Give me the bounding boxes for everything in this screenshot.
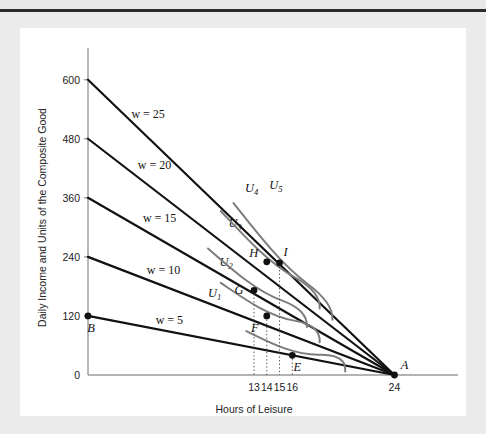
point-label-E: E (292, 360, 301, 374)
data-point-E (289, 352, 296, 359)
y-tick-label: 240 (62, 251, 80, 263)
x-tick-label: 14 (261, 381, 273, 393)
data-point-A (391, 372, 398, 379)
y-tick-label: 600 (62, 74, 80, 86)
y-tick-label: 0 (74, 369, 80, 381)
data-point-G (251, 287, 258, 294)
y-tick-label: 480 (62, 133, 80, 145)
point-label-G: G (234, 283, 243, 297)
budget-label-w10: w = 10 (147, 263, 180, 277)
point-label-F: F (250, 321, 259, 335)
point-label-A: A (400, 358, 409, 372)
budget-line-w20 (88, 139, 394, 375)
data-point-H (263, 258, 270, 265)
y-tick-label: 360 (62, 192, 80, 204)
y-axis-title: Daily Income and Units of the Composite … (36, 108, 48, 327)
labor-leisure-budget-chart: 01202403604806001314151624Hours of Leisu… (20, 28, 466, 416)
x-tick-label: 24 (389, 381, 401, 393)
x-tick-label: 15 (274, 381, 286, 393)
figure-card: 01202403604806001314151624Hours of Leisu… (20, 28, 466, 416)
point-label-H: H (248, 246, 259, 260)
x-axis-title: Hours of Leisure (215, 403, 292, 415)
chart-svg: 01202403604806001314151624Hours of Leisu… (20, 28, 466, 416)
budget-label-w15: w = 15 (143, 211, 176, 225)
point-label-B: B (87, 321, 95, 335)
x-tick-label: 13 (248, 381, 260, 393)
budget-line-w5 (88, 316, 394, 375)
budget-label-w20: w = 20 (138, 158, 171, 172)
y-tick-label: 120 (62, 310, 80, 322)
data-point-B (85, 313, 92, 320)
data-point-F (263, 313, 270, 320)
indifference-label-U4: U4 (245, 181, 259, 197)
x-tick-label: 16 (286, 381, 298, 393)
indifference-label-U1: U1 (208, 286, 221, 302)
indifference-label-U5: U5 (269, 178, 282, 194)
budget-label-w5: w = 5 (156, 313, 183, 327)
data-point-I (276, 259, 283, 266)
point-label-I: I (282, 245, 288, 259)
budget-line-w10 (88, 257, 394, 375)
budget-label-w25: w = 25 (131, 107, 164, 121)
